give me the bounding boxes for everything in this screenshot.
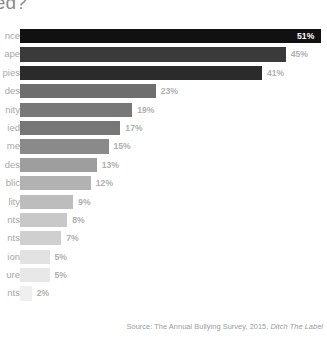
bar-row: nce51% [0,29,327,47]
bar-category-label: ape [4,47,20,61]
bar-track: 13% [20,158,327,172]
bar-value-label: 2% [37,286,49,300]
bar-row: ied17% [0,121,327,139]
bar-value-label: 19% [137,103,154,117]
bar-category-label: nce [5,29,20,43]
bar-category-label: ied [7,121,20,135]
bar-fill [20,213,67,227]
bar-chart: re bullied? nce51%ape45%pies41%des23%nit… [0,0,327,339]
bar-fill [20,66,262,80]
bar-value-label: 45% [291,47,308,61]
bar-track: 8% [20,213,327,227]
bar-category-label: nts [7,286,20,300]
bar-fill [20,250,50,264]
bar-category-label: des [5,158,20,172]
bar-track: 19% [20,103,327,117]
bar-category-label: lity [8,195,20,209]
bar-row: des13% [0,158,327,176]
bar-fill [20,103,132,117]
bar-category-label: nts [7,231,20,245]
source-prefix: Source: The Annual Bullying Survey, 2015… [127,322,271,331]
bar-track: 41% [20,66,327,80]
bar-value-label: 13% [102,158,119,172]
bar-row: ure5% [0,268,327,286]
bar-row: ape45% [0,47,327,65]
bar-fill [20,84,156,98]
bar-fill [20,231,61,245]
bar-track: 5% [20,268,327,282]
bar-value-label: 5% [55,268,67,282]
bar-row: nts7% [0,231,327,249]
bar-track: 51% [20,29,327,43]
bar-fill [20,158,97,172]
bar-fill [20,268,50,282]
bar-track: 12% [20,176,327,190]
bar-fill [20,195,73,209]
source-publisher: Ditch The Label [270,322,323,331]
bar-list: nce51%ape45%pies41%des23%nity19%ied17%me… [0,29,327,305]
bar-category-label: me [7,139,20,153]
bar-row: nts2% [0,286,327,304]
bar-category-label: nity [5,103,20,117]
bar-row: nity19% [0,103,327,121]
bar-fill [20,121,120,135]
bar-track: 9% [20,195,327,209]
bar-value-label: 41% [267,66,284,80]
bar-row: pies41% [0,66,327,84]
bar-value-label: 17% [125,121,142,135]
bar-track: 45% [20,47,327,61]
bar-value-label: 12% [96,176,113,190]
bar-track: 23% [20,84,327,98]
bar-row: nts8% [0,213,327,231]
bar-value-label: 7% [66,231,78,245]
bar-value-label: 5% [55,250,67,264]
bar-category-label: blic [6,176,20,190]
bar-track: 7% [20,231,327,245]
bar-track: 15% [20,139,327,153]
bar-value-label: 51% [297,29,314,43]
source-attribution: Source: The Annual Bullying Survey, 2015… [127,322,324,331]
bar-track: 2% [20,286,327,300]
bar-fill [20,139,109,153]
bar-category-label: ure [6,268,20,282]
bar-value-label: 15% [114,139,131,153]
bar-fill [20,47,286,61]
bar-value-label: 23% [161,84,178,98]
bar-track: 5% [20,250,327,264]
bar-row: lity9% [0,195,327,213]
bar-value-label: 9% [78,195,90,209]
bar-row: blic12% [0,176,327,194]
bar-value-label: 8% [72,213,84,227]
bar-fill [20,286,32,300]
bar-category-label: pies [3,66,20,80]
bar-fill [20,176,91,190]
bar-category-label: ion [7,250,20,264]
bar-row: me15% [0,139,327,157]
bar-category-label: nts [7,213,20,227]
bar-row: des23% [0,84,327,102]
page-title: re bullied? [0,0,27,15]
bar-row: ion5% [0,250,327,268]
bar-category-label: des [5,84,20,98]
bar-fill [20,29,321,43]
bar-track: 17% [20,121,327,135]
